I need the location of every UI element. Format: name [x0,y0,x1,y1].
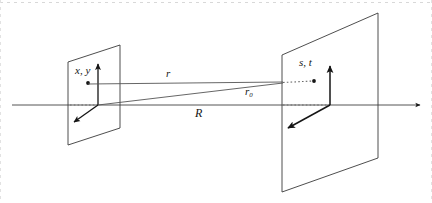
observation-coords-label: s, t [299,57,312,68]
plane-separation-label: R [195,107,202,119]
axial-distance-label: r0 [245,86,253,99]
observation-plane-axes [288,66,330,128]
axial-distance-subscript: 0 [249,91,252,98]
scan-border [0,0,432,203]
observation-point [283,79,316,83]
source-coords-label: x, y [75,65,90,76]
ray-distance-label: r [166,68,170,79]
ray-r0 [98,83,283,105]
source-plane [68,45,120,145]
diffraction-geometry-figure [0,0,432,203]
ray-r [88,82,283,84]
figure-canvas [0,0,432,203]
